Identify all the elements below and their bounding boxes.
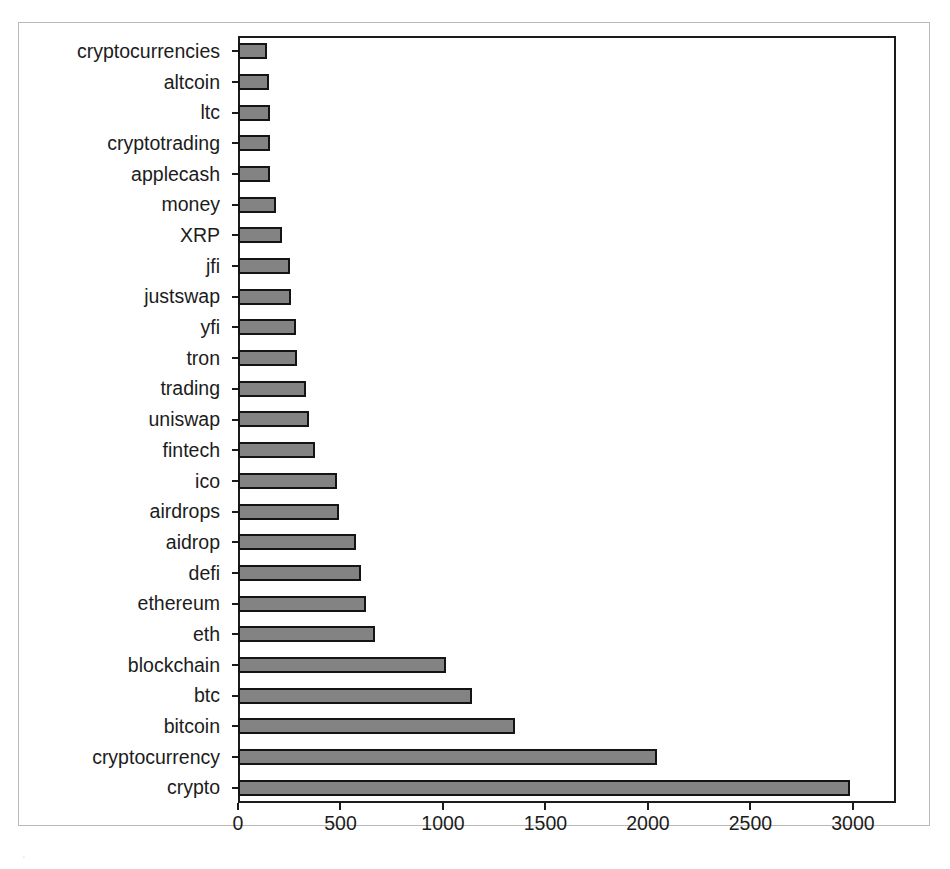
- x-axis-tick-mark: [647, 803, 649, 810]
- bar-row: [238, 404, 896, 435]
- y-axis-label: applecash: [131, 159, 220, 190]
- y-axis-label: defi: [189, 558, 220, 589]
- x-axis-tick-mark: [852, 803, 854, 810]
- bar-row: [238, 742, 896, 773]
- bar-row: [238, 67, 896, 98]
- bar: [238, 381, 306, 397]
- x-axis-tick-label: 1500: [524, 812, 567, 835]
- x-axis-tick-mark: [749, 803, 751, 810]
- bar-row: [238, 189, 896, 220]
- bar: [238, 749, 657, 765]
- bar: [238, 319, 296, 335]
- bar: [238, 596, 366, 612]
- y-axis-label: ltc: [201, 97, 221, 128]
- bar-row: [238, 159, 896, 190]
- bar-row: [238, 680, 896, 711]
- y-axis-label: aidrop: [166, 527, 220, 558]
- bar: [238, 718, 515, 734]
- y-axis-label: jfi: [206, 251, 220, 282]
- bar: [238, 197, 276, 213]
- bar: [238, 350, 297, 366]
- y-axis-label: altcoin: [164, 67, 220, 98]
- bar-row: [238, 251, 896, 282]
- y-axis-label: justswap: [144, 281, 220, 312]
- bar: [238, 135, 270, 151]
- y-axis-label: ico: [195, 466, 220, 497]
- y-axis-label: airdrops: [150, 496, 220, 527]
- y-axis-label: fintech: [163, 435, 220, 466]
- y-axis-label: XRP: [180, 220, 220, 251]
- bar: [238, 565, 361, 581]
- y-axis-label: money: [161, 189, 220, 220]
- x-axis-tick-mark: [544, 803, 546, 810]
- bar: [238, 258, 290, 274]
- bar-row: [238, 496, 896, 527]
- bar-row: [238, 373, 896, 404]
- bar: [238, 657, 446, 673]
- chart-page: cryptocurrenciesaltcoinltccryptotradinga…: [0, 0, 950, 869]
- bar: [238, 534, 356, 550]
- caption-partial-text: .: [22, 846, 602, 860]
- bar-row: [238, 128, 896, 159]
- bar-row: [238, 711, 896, 742]
- x-axis-tick-mark: [442, 803, 444, 810]
- bar-row: [238, 435, 896, 466]
- x-axis-tick-label: 1000: [421, 812, 464, 835]
- bar: [238, 780, 850, 796]
- bar: [238, 411, 309, 427]
- y-axis-label: yfi: [201, 312, 221, 343]
- bar-row: [238, 281, 896, 312]
- bar: [238, 43, 267, 59]
- y-axis-label: ethereum: [138, 588, 220, 619]
- bar-row: [238, 312, 896, 343]
- y-axis-label: btc: [194, 680, 220, 711]
- bar: [238, 105, 270, 121]
- bar-series: [238, 36, 896, 803]
- y-axis-label: tron: [186, 343, 220, 374]
- bar: [238, 442, 315, 458]
- x-axis-tick-label: 500: [324, 812, 357, 835]
- bar-row: [238, 558, 896, 589]
- y-axis-label: cryptotrading: [107, 128, 220, 159]
- bar: [238, 688, 472, 704]
- y-axis-label: cryptocurrencies: [77, 36, 220, 67]
- x-axis-tick-label: 2000: [626, 812, 669, 835]
- bar: [238, 166, 270, 182]
- bar: [238, 74, 269, 90]
- y-axis-label: crypto: [167, 772, 220, 803]
- bar-row: [238, 527, 896, 558]
- y-axis-category-labels: cryptocurrenciesaltcoinltccryptotradinga…: [0, 36, 232, 803]
- y-axis-label: eth: [193, 619, 220, 650]
- bar-row: [238, 343, 896, 374]
- bar-row: [238, 36, 896, 67]
- bar-row: [238, 650, 896, 681]
- bar: [238, 504, 339, 520]
- x-axis-tick-label: 2500: [729, 812, 772, 835]
- bar-row: [238, 619, 896, 650]
- bar: [238, 473, 337, 489]
- y-axis-label: trading: [160, 373, 220, 404]
- x-axis-ticks: 050010001500200025003000: [238, 803, 896, 833]
- bar-row: [238, 772, 896, 803]
- y-axis-label: bitcoin: [164, 711, 220, 742]
- bar-row: [238, 588, 896, 619]
- x-axis-tick-mark: [237, 803, 239, 810]
- bar: [238, 289, 291, 305]
- y-axis-label: cryptocurrency: [92, 742, 220, 773]
- x-axis-tick-label: 3000: [831, 812, 874, 835]
- x-axis-tick-mark: [339, 803, 341, 810]
- y-axis-label: uniswap: [148, 404, 220, 435]
- bar: [238, 626, 375, 642]
- x-axis-tick-label: 0: [233, 812, 244, 835]
- bar-row: [238, 220, 896, 251]
- bar-row: [238, 97, 896, 128]
- bar-row: [238, 466, 896, 497]
- bar: [238, 227, 282, 243]
- y-axis-label: blockchain: [128, 650, 220, 681]
